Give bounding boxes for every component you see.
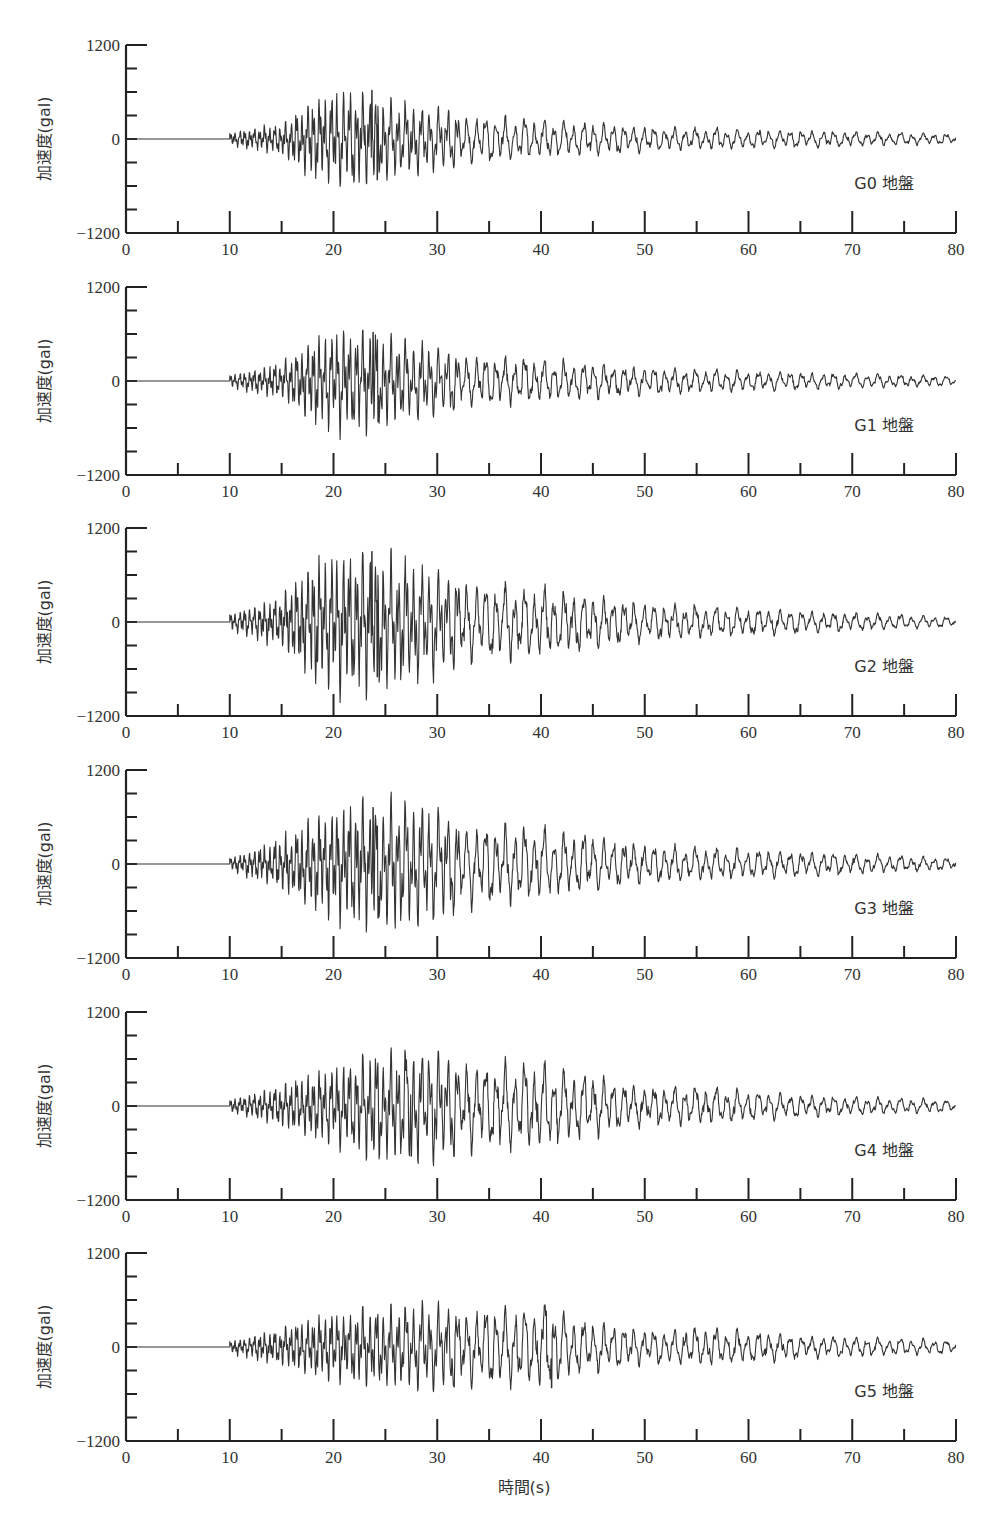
x-tick-label: 20 (325, 482, 342, 501)
y-tick-label: −1200 (76, 949, 120, 968)
x-tick-label: 0 (122, 240, 131, 259)
x-tick-label: 80 (948, 1207, 965, 1226)
y-tick-label: 1200 (86, 519, 120, 538)
y-tick-label: 0 (112, 855, 121, 874)
x-tick-label: 40 (533, 482, 550, 501)
x-tick-label: 70 (844, 240, 861, 259)
x-tick-label: 70 (844, 965, 861, 984)
x-tick-label: 10 (221, 482, 238, 501)
x-tick-label: 10 (221, 723, 238, 742)
x-tick-label: 40 (533, 240, 550, 259)
waveform-line (126, 1048, 956, 1166)
x-tick-label: 70 (844, 1207, 861, 1226)
x-tick-label: 60 (740, 240, 757, 259)
y-tick-label: −1200 (76, 466, 120, 485)
y-tick-label: −1200 (76, 1432, 120, 1451)
x-tick-label: 80 (948, 240, 965, 259)
x-tick-label: 30 (429, 1207, 446, 1226)
x-tick-label: 50 (636, 723, 653, 742)
panel-label: G0 地盤 (854, 174, 914, 193)
y-tick-label: 1200 (86, 36, 120, 55)
x-tick-label: 50 (636, 1448, 653, 1467)
x-tick-label: 30 (429, 240, 446, 259)
y-tick-label: 1200 (86, 278, 120, 297)
x-tick-label: 0 (122, 965, 131, 984)
waveform-line (126, 792, 956, 932)
x-tick-label: 10 (221, 1448, 238, 1467)
x-tick-label: 70 (844, 723, 861, 742)
x-tick-label: 10 (221, 1207, 238, 1226)
x-tick-label: 60 (740, 1207, 757, 1226)
panel-g0: 0102030405060708012000−1200加速度(gal)G0 地盤 (35, 36, 965, 259)
panel-label: G2 地盤 (854, 657, 914, 676)
x-tick-label: 80 (948, 482, 965, 501)
x-axis-title: 時間(s) (0, 1474, 998, 1498)
y-tick-label: −1200 (76, 707, 120, 726)
x-tick-label: 20 (325, 965, 342, 984)
x-tick-label: 60 (740, 482, 757, 501)
panel-g2: 0102030405060708012000−1200加速度(gal)G2 地盤 (35, 519, 965, 742)
x-tick-label: 70 (844, 1448, 861, 1467)
y-tick-label: −1200 (76, 1191, 120, 1210)
x-tick-label: 0 (122, 1207, 131, 1226)
x-tick-label: 80 (948, 723, 965, 742)
panel-g1: 0102030405060708012000−1200加速度(gal)G1 地盤 (35, 278, 965, 501)
x-tick-label: 60 (740, 1448, 757, 1467)
waveform-line (126, 330, 956, 439)
y-axis-title: 加速度(gal) (35, 97, 54, 182)
waveform-line (126, 548, 956, 702)
y-tick-label: 0 (112, 1338, 121, 1357)
x-tick-label: 80 (948, 965, 965, 984)
x-tick-label: 10 (221, 240, 238, 259)
y-tick-label: 0 (112, 613, 121, 632)
x-tick-label: 80 (948, 1448, 965, 1467)
x-tick-label: 50 (636, 240, 653, 259)
x-tick-label: 50 (636, 1207, 653, 1226)
panel-label: G4 地盤 (854, 1141, 914, 1160)
x-tick-label: 0 (122, 723, 131, 742)
x-tick-label: 40 (533, 965, 550, 984)
x-tick-label: 20 (325, 1207, 342, 1226)
panel-label: G5 地盤 (854, 1382, 914, 1401)
y-tick-label: −1200 (76, 224, 120, 243)
x-tick-label: 40 (533, 723, 550, 742)
panel-g4: 0102030405060708012000−1200加速度(gal)G4 地盤 (35, 1003, 965, 1226)
x-tick-label: 60 (740, 723, 757, 742)
x-tick-label: 30 (429, 482, 446, 501)
panel-g3: 0102030405060708012000−1200加速度(gal)G3 地盤 (35, 761, 965, 984)
y-tick-label: 0 (112, 372, 121, 391)
x-tick-label: 50 (636, 482, 653, 501)
x-tick-label: 70 (844, 482, 861, 501)
y-axis-title: 加速度(gal) (35, 580, 54, 665)
y-axis-title: 加速度(gal) (35, 1305, 54, 1390)
waveform-line (126, 1300, 956, 1391)
x-tick-label: 30 (429, 723, 446, 742)
waveform-line (126, 90, 956, 186)
x-tick-label: 10 (221, 965, 238, 984)
y-axis-title: 加速度(gal) (35, 339, 54, 424)
y-axis-title: 加速度(gal) (35, 1064, 54, 1149)
x-tick-label: 30 (429, 965, 446, 984)
x-tick-label: 20 (325, 723, 342, 742)
x-tick-label: 20 (325, 240, 342, 259)
y-tick-label: 0 (112, 130, 121, 149)
y-tick-label: 1200 (86, 1244, 120, 1263)
x-tick-label: 60 (740, 965, 757, 984)
x-tick-label: 50 (636, 965, 653, 984)
y-tick-label: 0 (112, 1097, 121, 1116)
y-axis-title: 加速度(gal) (35, 822, 54, 907)
acceleration-figure: 0102030405060708012000−1200加速度(gal)G0 地盤… (0, 0, 998, 1518)
x-tick-label: 30 (429, 1448, 446, 1467)
x-tick-label: 40 (533, 1448, 550, 1467)
y-tick-label: 1200 (86, 1003, 120, 1022)
panel-label: G1 地盤 (854, 416, 914, 435)
panel-label: G3 地盤 (854, 899, 914, 918)
x-tick-label: 20 (325, 1448, 342, 1467)
x-tick-label: 0 (122, 482, 131, 501)
x-tick-label: 0 (122, 1448, 131, 1467)
x-tick-label: 40 (533, 1207, 550, 1226)
y-tick-label: 1200 (86, 761, 120, 780)
panel-g5: 0102030405060708012000−1200加速度(gal)G5 地盤 (35, 1244, 965, 1467)
